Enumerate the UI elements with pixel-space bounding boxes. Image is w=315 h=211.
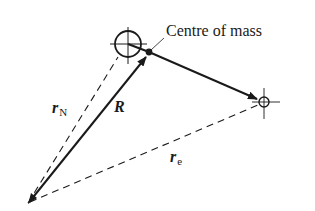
r-n-symbol: r <box>52 99 58 116</box>
r-label: R <box>114 98 125 116</box>
r-n-label: rN <box>52 99 67 118</box>
r-e-label: re <box>170 148 182 167</box>
vector-diagram <box>0 0 315 211</box>
r-n-subscript: N <box>59 106 67 118</box>
nucleus-marker-icon <box>110 27 147 64</box>
r-vector-solid <box>30 57 146 201</box>
r-e-symbol: r <box>170 148 176 165</box>
r-e-vector-dashed <box>30 105 258 202</box>
com-to-electron-vector <box>149 52 257 99</box>
centre-of-mass-leader <box>151 38 164 50</box>
r-e-subscript: e <box>177 155 182 167</box>
electron-marker-icon <box>252 88 280 119</box>
centre-of-mass-label: Centre of mass <box>166 22 262 40</box>
r-n-vector-dashed <box>28 57 118 203</box>
